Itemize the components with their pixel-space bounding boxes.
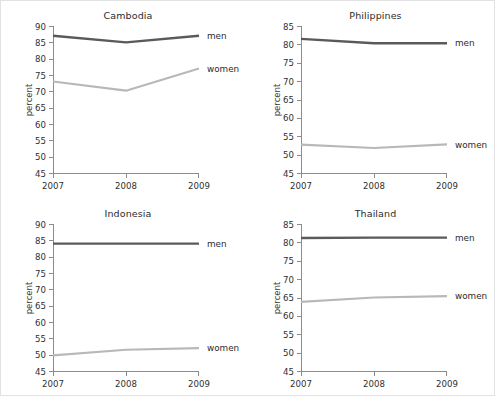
- y-tick-label: 55: [35, 334, 46, 344]
- y-tick-label: 65: [283, 293, 294, 303]
- x-tick-label: 2007: [290, 181, 312, 191]
- x-tick-label: 2007: [290, 379, 312, 389]
- series-line-women: [301, 144, 447, 148]
- y-tick-label: 70: [35, 87, 46, 97]
- y-tick-label: 50: [283, 150, 294, 160]
- chart-panel-thailand: Thailand percent 45505560657075808520072…: [249, 199, 495, 396]
- y-tick-label: 90: [35, 220, 46, 230]
- x-tick-label: 2008: [363, 181, 385, 191]
- chart-panel-indonesia: Indonesia percent 4550556065707580859020…: [1, 199, 249, 396]
- y-tick-label: 85: [283, 22, 294, 32]
- chart-panel-philippines: Philippines percent 45505560657075808520…: [249, 1, 495, 199]
- y-tick-label: 60: [35, 318, 46, 328]
- series-line-women: [53, 348, 199, 355]
- series-label-men: men: [207, 31, 227, 41]
- plot-area: 455055606570758085200720082009menwomen: [249, 1, 495, 199]
- chart-panel-cambodia: Cambodia percent 45505560657075808590200…: [1, 1, 249, 199]
- y-tick-label: 45: [283, 367, 294, 377]
- y-tick-label: 85: [35, 38, 46, 48]
- y-tick-label: 50: [283, 348, 294, 358]
- y-tick-label: 85: [283, 220, 294, 230]
- series-label-men: men: [455, 233, 475, 243]
- y-tick-label: 50: [35, 152, 46, 162]
- series-line-women: [301, 296, 447, 302]
- plot-area: 455055606570758085200720082009menwomen: [249, 199, 495, 396]
- series-label-men: men: [455, 38, 475, 48]
- series-line-men: [301, 39, 447, 43]
- y-tick-label: 70: [283, 275, 294, 285]
- panel-grid: Cambodia percent 45505560657075808590200…: [1, 1, 495, 396]
- y-tick-label: 55: [283, 132, 294, 142]
- y-tick-label: 70: [283, 77, 294, 87]
- y-tick-label: 45: [283, 169, 294, 179]
- series-label-women: women: [207, 343, 239, 353]
- x-tick-label: 2008: [115, 379, 137, 389]
- y-tick-label: 60: [283, 311, 294, 321]
- y-tick-label: 45: [35, 367, 46, 377]
- plot-area: 45505560657075808590200720082009menwomen: [1, 199, 249, 396]
- y-tick-label: 60: [283, 113, 294, 123]
- y-tick-label: 80: [35, 252, 46, 262]
- y-tick-label: 90: [35, 22, 46, 32]
- y-tick-label: 75: [35, 269, 46, 279]
- y-tick-label: 75: [35, 71, 46, 81]
- line-chart-figure: Cambodia percent 45505560657075808590200…: [0, 0, 495, 396]
- x-tick-label: 2009: [436, 181, 458, 191]
- series-label-women: women: [455, 291, 487, 301]
- series-label-men: men: [207, 239, 227, 249]
- series-label-women: women: [455, 140, 487, 150]
- y-tick-label: 65: [283, 95, 294, 105]
- y-tick-label: 70: [35, 285, 46, 295]
- y-tick-label: 75: [283, 58, 294, 68]
- y-tick-label: 45: [35, 169, 46, 179]
- y-tick-label: 75: [283, 256, 294, 266]
- x-tick-label: 2009: [188, 379, 210, 389]
- x-tick-label: 2007: [42, 379, 64, 389]
- y-tick-label: 80: [35, 54, 46, 64]
- series-line-women: [53, 68, 199, 90]
- x-tick-label: 2009: [188, 181, 210, 191]
- plot-area: 45505560657075808590200720082009menwomen: [1, 1, 249, 199]
- y-tick-label: 60: [35, 120, 46, 130]
- y-tick-label: 65: [35, 103, 46, 113]
- x-tick-label: 2008: [115, 181, 137, 191]
- y-tick-label: 85: [35, 236, 46, 246]
- x-tick-label: 2007: [42, 181, 64, 191]
- y-tick-label: 80: [283, 238, 294, 248]
- x-tick-label: 2008: [363, 379, 385, 389]
- y-tick-label: 55: [283, 330, 294, 340]
- y-tick-label: 50: [35, 350, 46, 360]
- series-label-women: women: [207, 64, 239, 74]
- x-tick-label: 2009: [436, 379, 458, 389]
- y-tick-label: 65: [35, 301, 46, 311]
- series-line-men: [53, 36, 199, 43]
- y-tick-label: 55: [35, 136, 46, 146]
- y-tick-label: 80: [283, 40, 294, 50]
